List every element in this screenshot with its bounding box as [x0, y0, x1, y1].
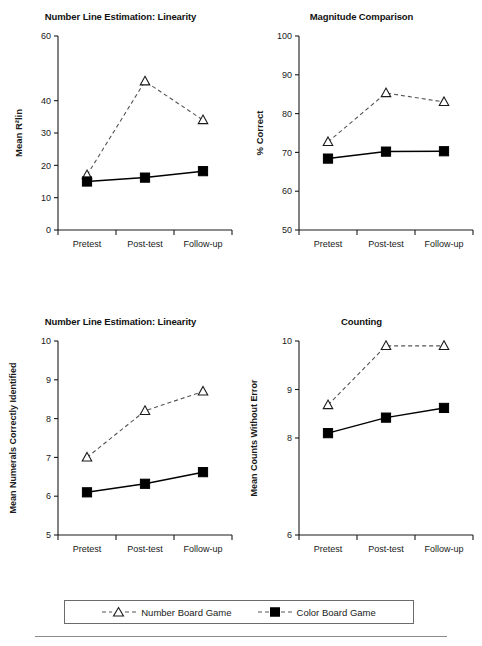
- y-axis-title: Mean Counts Without Error: [249, 379, 259, 496]
- data-point-marker-square: [140, 173, 149, 182]
- y-tick-label: 40: [41, 96, 51, 106]
- y-tick-label: 10: [41, 336, 51, 346]
- data-point-marker-triangle: [439, 341, 449, 350]
- data-point-marker-square: [381, 413, 390, 422]
- y-tick-label: 30: [41, 128, 51, 138]
- data-point-marker-square: [323, 154, 332, 163]
- chart-panel-number-line-estimation-linearity: Number Line Estimation: Linearity 010203…: [0, 10, 241, 274]
- chart-panel-counting: Counting 68910PretestPost-testFollow-upM…: [241, 315, 482, 579]
- x-category-label: Post-test: [127, 239, 163, 249]
- y-tick-label: 5: [46, 530, 51, 540]
- legend-entry-number-board-game: Number Board Game: [102, 606, 231, 618]
- open-triangle-icon: [102, 606, 136, 618]
- y-tick-label: 8: [46, 414, 51, 424]
- x-category-label: Pretest: [73, 239, 102, 249]
- x-category-label: Post-test: [127, 544, 163, 554]
- y-tick-label: 60: [41, 31, 51, 41]
- y-tick-label: 90: [282, 70, 292, 80]
- series-line-number-board-game: [87, 81, 203, 175]
- y-tick-label: 60: [282, 186, 292, 196]
- y-tick-label: 50: [282, 225, 292, 235]
- y-tick-label: 6: [287, 530, 292, 540]
- legend-label: Color Board Game: [297, 607, 376, 618]
- data-point-marker-square: [381, 147, 390, 156]
- data-point-marker-square: [323, 429, 332, 438]
- y-tick-label: 7: [46, 453, 51, 463]
- chart-title: Counting: [241, 315, 482, 329]
- chart-canvas: 68910PretestPost-testFollow-upMean Count…: [241, 329, 482, 579]
- legend-entry-color-board-game: Color Board Game: [258, 606, 376, 618]
- data-point-marker-triangle: [439, 97, 449, 106]
- y-tick-label: 0: [46, 225, 51, 235]
- chart-canvas: 5060708090100PretestPost-testFollow-up% …: [241, 24, 482, 274]
- footer-divider: [35, 636, 447, 637]
- legend: Number Board Game Color Board Game: [64, 600, 414, 624]
- series-line-number-board-game: [328, 93, 444, 142]
- data-point-marker-triangle: [323, 137, 333, 146]
- data-point-marker-square: [198, 167, 207, 176]
- data-point-marker-square: [439, 403, 448, 412]
- x-category-label: Post-test: [368, 544, 404, 554]
- data-point-marker-triangle: [198, 386, 208, 395]
- x-category-label: Follow-up: [424, 544, 463, 554]
- chart-title: Magnitude Comparison: [241, 10, 482, 24]
- y-tick-label: 9: [46, 375, 51, 385]
- data-point-marker-triangle: [140, 76, 150, 85]
- y-tick-label: 10: [282, 336, 292, 346]
- data-point-marker-triangle: [323, 400, 333, 409]
- chart-panel-numerals-correctly-identified: Number Line Estimation: Linearity 567891…: [0, 315, 241, 579]
- y-tick-label: 10: [41, 193, 51, 203]
- x-category-label: Pretest: [314, 239, 343, 249]
- series-line-number-board-game: [328, 346, 444, 405]
- y-axis-title: Mean Numerals Correctly Identified: [8, 362, 18, 513]
- data-point-marker-square: [82, 177, 91, 186]
- y-axis-title: % Correct: [254, 110, 265, 156]
- figure-panel-grid: Number Line Estimation: Linearity 010203…: [0, 0, 482, 646]
- data-point-marker-square: [198, 468, 207, 477]
- x-category-label: Pretest: [314, 544, 343, 554]
- x-category-label: Post-test: [368, 239, 404, 249]
- filled-square-icon: [258, 606, 292, 618]
- y-tick-label: 9: [287, 385, 292, 395]
- y-tick-label: 80: [282, 109, 292, 119]
- data-point-marker-square: [82, 488, 91, 497]
- x-category-label: Follow-up: [183, 544, 222, 554]
- chart-title: Number Line Estimation: Linearity: [0, 315, 241, 329]
- chart-canvas: 5678910PretestPost-testFollow-upMean Num…: [0, 329, 241, 579]
- legend-label: Number Board Game: [141, 607, 231, 618]
- chart-panel-magnitude-comparison: Magnitude Comparison 5060708090100Pretes…: [241, 10, 482, 274]
- data-point-marker-triangle: [198, 115, 208, 124]
- data-point-marker-triangle: [381, 341, 391, 350]
- y-tick-label: 70: [282, 148, 292, 158]
- x-category-label: Follow-up: [183, 239, 222, 249]
- data-point-marker-triangle: [82, 452, 92, 461]
- data-point-marker-square: [140, 479, 149, 488]
- x-category-label: Pretest: [73, 544, 102, 554]
- x-category-label: Follow-up: [424, 239, 463, 249]
- y-axis-title: Mean R²lin: [13, 109, 24, 157]
- data-point-marker-triangle: [381, 88, 391, 97]
- chart-title: Number Line Estimation: Linearity: [0, 10, 241, 24]
- chart-canvas: 01020304060PretestPost-testFollow-upMean…: [0, 24, 241, 274]
- y-tick-label: 20: [41, 161, 51, 171]
- series-line-number-board-game: [87, 391, 203, 457]
- y-tick-label: 8: [287, 433, 292, 443]
- y-tick-label: 6: [46, 491, 51, 501]
- data-point-marker-square: [439, 147, 448, 156]
- y-tick-label: 100: [277, 31, 292, 41]
